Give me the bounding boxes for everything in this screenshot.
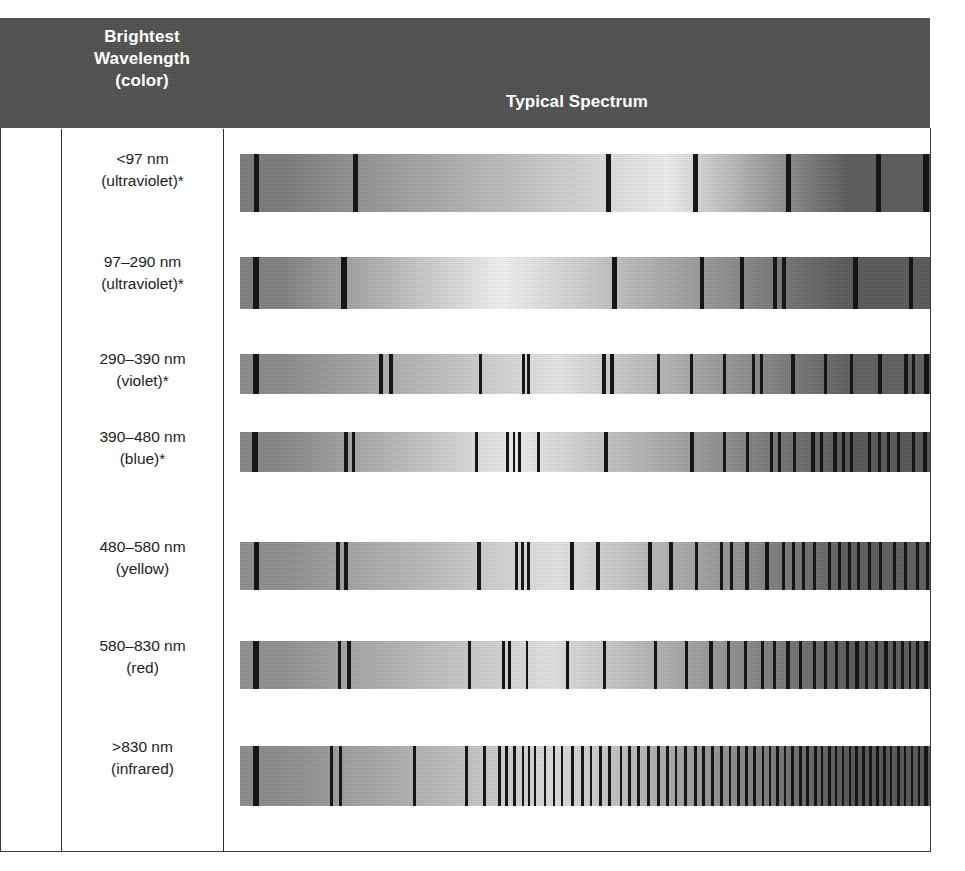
absorption-line <box>465 746 468 806</box>
absorption-line <box>723 354 726 394</box>
absorption-line <box>760 354 763 394</box>
absorption-line <box>338 641 341 689</box>
row-label-wavelength: 97–290 nm(ultraviolet)* <box>62 251 223 295</box>
absorption-line <box>709 641 712 689</box>
table-row: 97–290 nm(ultraviolet)* <box>62 243 930 338</box>
absorption-line <box>727 641 730 689</box>
absorption-line <box>746 432 749 472</box>
absorption-line <box>521 542 524 590</box>
absorption-line <box>778 432 781 472</box>
absorption-line <box>647 746 650 806</box>
absorption-line <box>893 542 896 590</box>
absorption-line <box>924 746 927 806</box>
absorption-line <box>502 641 505 689</box>
header-line-1: Brightest <box>62 26 222 48</box>
absorption-line <box>842 746 845 806</box>
absorption-line <box>912 432 915 472</box>
table-border-right <box>930 128 931 852</box>
absorption-line <box>603 641 606 689</box>
absorption-line <box>765 542 768 590</box>
absorption-line <box>571 746 574 806</box>
absorption-line <box>690 432 694 472</box>
absorption-line <box>341 257 347 309</box>
absorption-line <box>740 257 745 309</box>
spectrum-cell <box>240 354 930 394</box>
absorption-line <box>855 641 858 689</box>
absorption-line <box>479 354 482 394</box>
wavelength-color-name: (ultraviolet)* <box>62 273 223 295</box>
row-label-wavelength: 580–830 nm(red) <box>62 635 223 679</box>
absorption-lines <box>240 432 930 472</box>
absorption-line <box>654 641 657 689</box>
absorption-line <box>498 746 501 806</box>
absorption-line <box>602 354 606 394</box>
absorption-line <box>857 542 860 590</box>
figure-root: Brightest Wavelength (color) Typical Spe… <box>0 0 965 871</box>
row-label-wavelength: >830 nm(infrared) <box>62 736 223 780</box>
absorption-line <box>737 746 740 806</box>
absorption-line <box>483 746 486 806</box>
absorption-lines <box>240 641 930 689</box>
absorption-line <box>799 746 802 806</box>
absorption-line <box>344 542 348 590</box>
spectrum-cell <box>240 542 930 590</box>
absorption-line <box>253 257 259 309</box>
absorption-line <box>876 746 878 806</box>
absorption-line <box>853 257 858 309</box>
absorption-line <box>793 432 796 472</box>
absorption-line <box>862 746 864 806</box>
wavelength-range: 290–390 nm <box>62 348 223 370</box>
absorption-line <box>835 746 837 806</box>
table-row: 290–390 nm(violet)* <box>62 340 930 423</box>
absorption-line <box>821 746 823 806</box>
row-label-wavelength: 390–480 nm(blue)* <box>62 426 223 470</box>
absorption-line <box>909 257 913 309</box>
absorption-line <box>924 354 928 394</box>
absorption-line <box>604 432 608 472</box>
absorption-line <box>926 542 929 590</box>
absorption-line <box>773 641 776 689</box>
absorption-line <box>506 432 509 472</box>
absorption-line <box>904 746 906 806</box>
absorption-line <box>570 542 574 590</box>
absorption-line <box>811 432 814 472</box>
spectrum-band-blue <box>240 432 930 472</box>
absorption-line <box>879 542 882 590</box>
absorption-line <box>918 746 921 806</box>
absorption-line <box>352 432 355 472</box>
absorption-line <box>824 354 827 394</box>
absorption-line <box>553 746 556 806</box>
absorption-line <box>802 542 805 590</box>
spectrum-cell <box>240 257 930 309</box>
wavelength-range: 97–290 nm <box>62 251 223 273</box>
wavelength-color-name: (yellow) <box>62 558 223 580</box>
row-label-wavelength: 480–580 nm(yellow) <box>62 536 223 580</box>
absorption-line <box>648 542 652 590</box>
absorption-line <box>884 641 887 689</box>
absorption-line <box>745 542 748 590</box>
absorption-line <box>876 154 881 212</box>
absorption-lines <box>240 257 930 309</box>
absorption-line <box>878 432 881 472</box>
absorption-line <box>527 542 530 590</box>
absorption-line <box>561 746 563 806</box>
spectrum-band-yellow <box>240 542 930 590</box>
absorption-line <box>791 746 794 806</box>
spectrum-cell <box>240 641 930 689</box>
absorption-line <box>336 542 340 590</box>
wavelength-color-name: (violet)* <box>62 370 223 392</box>
absorption-line <box>669 542 672 590</box>
absorption-line <box>924 641 927 689</box>
absorption-line <box>690 354 693 394</box>
absorption-line <box>773 257 777 309</box>
absorption-line <box>828 746 831 806</box>
absorption-line <box>849 746 851 806</box>
absorption-line <box>887 432 890 472</box>
absorption-line <box>769 746 771 806</box>
absorption-lines <box>240 354 930 394</box>
absorption-line <box>850 432 853 472</box>
absorption-line <box>782 257 786 309</box>
absorption-line <box>916 641 919 689</box>
absorption-line <box>253 746 259 806</box>
table-row: >830 nm(infrared) <box>62 722 930 832</box>
